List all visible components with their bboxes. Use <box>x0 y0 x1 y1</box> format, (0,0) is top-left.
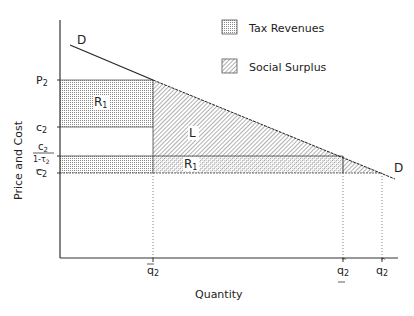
label-demand-right: D <box>394 161 403 175</box>
label-l: L <box>189 126 196 140</box>
legend-swatch-social-surplus <box>222 59 237 73</box>
legend: Tax Revenues Social Surplus <box>222 20 327 74</box>
svg-text:q2: q2 <box>147 264 159 278</box>
label-ratio: c2 1-τ2 <box>33 141 54 165</box>
label-p2: P2 <box>36 74 48 88</box>
label-demand-left: D <box>77 33 86 47</box>
x-axis-title: Quantity <box>195 288 243 301</box>
tax-revenue-lower-left-region <box>60 156 153 173</box>
label-qunder: ^ q2 <box>337 257 349 282</box>
label-c2-upper: c2 <box>36 121 47 135</box>
legend-label-tax-revenues: Tax Revenues <box>248 22 325 35</box>
legend-label-social-surplus: Social Surplus <box>249 61 327 74</box>
diagram: P2 c2 c2 1-τ2 c2 q2 ^ q2 ^ q2 Quantity P… <box>0 0 414 316</box>
label-qbar: q2 <box>147 264 159 278</box>
label-qhat: ^ q2 <box>376 257 388 278</box>
svg-text:1-τ2: 1-τ2 <box>33 155 50 165</box>
demand-curve-upper <box>70 45 153 80</box>
svg-text:q2: q2 <box>337 264 349 278</box>
svg-text:c2: c2 <box>38 141 48 154</box>
overlap-hatch <box>153 156 343 173</box>
y-axis-title: Price and Cost <box>12 120 25 200</box>
label-c2-lower: c2 <box>36 165 47 179</box>
svg-text:q2: q2 <box>376 264 388 278</box>
legend-swatch-tax-revenues <box>222 20 237 34</box>
